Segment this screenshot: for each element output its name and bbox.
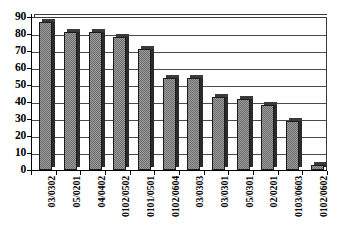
x-tick-label: 0102/0604 [171,176,181,217]
y-tick-mark [27,17,31,18]
bar [138,46,154,170]
y-tick-label: 90 [0,11,26,23]
bar-front-face [237,99,250,170]
bar-side-face [102,29,105,167]
y-tick-mark [27,119,31,120]
bar-front-face [113,37,126,170]
x-tick-mark [56,171,57,175]
bar [261,102,277,170]
bar-chart: 0102030405060708090 03/030205/020104/040… [0,0,342,245]
y-tick-mark [27,153,31,154]
y-tick-mark [27,170,31,171]
y-tick-label: 20 [0,130,26,142]
y-tick-mark [27,102,31,103]
x-tick-mark [228,171,229,175]
bar-front-face [187,78,200,170]
bar-series [31,14,327,170]
y-tick-label: 40 [0,96,26,108]
x-tick-label: 03/0301 [220,176,230,207]
bar [113,34,129,170]
x-tick-mark [327,171,328,175]
bar-side-face [151,46,154,167]
y-axis: 0102030405060708090 [0,0,26,245]
bar-side-face [77,29,80,167]
bar-front-face [163,78,176,170]
x-tick-label: 0102/0602 [319,176,329,217]
x-tick-mark [253,171,254,175]
x-tick-mark [31,171,32,175]
x-tick-mark [204,171,205,175]
bar-side-face [274,102,277,167]
x-tick-label: 05/0201 [72,176,82,207]
y-axis-line [31,14,32,171]
bar-front-face [212,97,225,170]
x-tick-mark [302,171,303,175]
y-tick-label: 50 [0,79,26,91]
x-tick-label: 04/0402 [97,176,107,207]
x-tick-label: 05/0301 [245,176,255,207]
y-tick-mark [27,51,31,52]
bar-side-face [126,34,129,167]
bar [286,118,302,170]
y-tick-label: 70 [0,45,26,57]
x-tick-mark [154,171,155,175]
y-tick-mark [27,85,31,86]
bar-side-face [52,19,55,167]
bar-front-face [261,105,274,170]
bar-side-face [200,75,203,167]
x-tick-label: 02/0201 [269,176,279,207]
bar [212,94,228,170]
x-tick-mark [105,171,106,175]
bar [187,75,203,170]
y-tick-label: 0 [0,164,26,176]
y-tick-label: 80 [0,28,26,40]
x-tick-mark [179,171,180,175]
x-tick-label: 03/0302 [47,176,57,207]
x-axis: 03/030205/020104/04020102/05020101/05010… [31,171,327,245]
bar [39,19,55,170]
x-tick-label: 0102/0502 [121,176,131,217]
bar-side-face [176,75,179,167]
x-tick-label: 03/0303 [195,176,205,207]
bar-front-face [286,121,299,170]
x-tick-mark [130,171,131,175]
bar [89,29,105,170]
x-tick-mark [278,171,279,175]
bar [64,29,80,170]
bar-front-face [89,32,102,170]
bar-side-face [250,96,253,167]
bar [163,75,179,170]
bar [311,162,327,170]
y-tick-mark [27,68,31,69]
bar-side-face [225,94,228,167]
bar [237,96,253,170]
x-tick-mark [80,171,81,175]
x-tick-label: 0101/0501 [146,176,156,217]
y-tick-label: 30 [0,113,26,125]
y-tick-mark [27,136,31,137]
bar-front-face [39,22,52,170]
bar-front-face [138,49,151,170]
bar-front-face [64,32,77,170]
y-tick-label: 60 [0,62,26,74]
y-tick-label: 10 [0,147,26,159]
y-tick-mark [27,34,31,35]
x-tick-label: 0103/0603 [294,176,304,217]
bar-side-face [299,118,302,167]
